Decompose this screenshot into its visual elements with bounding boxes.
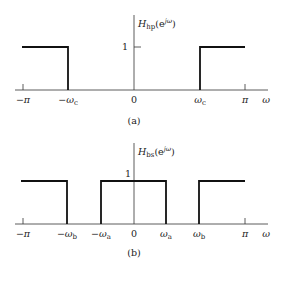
panel-a-y-label-1: 1 bbox=[122, 41, 128, 52]
panel-b-right-passband bbox=[199, 181, 245, 224]
panel-a-label-wc: ωc bbox=[194, 94, 206, 107]
panel-a-label-neg-wc: −ωc bbox=[58, 94, 78, 107]
panel-a-function-label: Hhp(ejω) bbox=[137, 17, 176, 31]
panel-b-label-neg-wb: −ωb bbox=[57, 228, 78, 241]
panel-b-center-passband bbox=[101, 181, 166, 224]
panel-a-highpass: Hhp(ejω) 1 −π −ωc 0 ωc π ω (a) bbox=[15, 15, 270, 126]
panel-a-axis-label-omega: ω bbox=[262, 94, 270, 105]
panel-a-label-zero: 0 bbox=[131, 94, 137, 105]
panel-a-right-passband bbox=[200, 47, 245, 90]
panel-a-caption: (a) bbox=[127, 115, 140, 126]
panel-b-label-wb: ωb bbox=[193, 228, 206, 241]
filter-diagram: Hhp(ejω) 1 −π −ωc 0 ωc π ω (a) Hbs(ejω) … bbox=[0, 0, 285, 281]
panel-b-caption: (b) bbox=[127, 247, 141, 258]
panel-b-label-neg-pi: −π bbox=[16, 228, 31, 239]
panel-b-axis-label-omega: ω bbox=[262, 228, 270, 239]
panel-b-label-zero: 0 bbox=[131, 228, 137, 239]
panel-b-function-label: Hbs(ejω) bbox=[137, 145, 175, 159]
panel-a-label-pi: π bbox=[241, 94, 249, 105]
panel-b-left-passband bbox=[21, 181, 67, 224]
panel-a-label-neg-pi: −π bbox=[16, 94, 31, 105]
panel-b-label-pi: π bbox=[241, 228, 249, 239]
panel-b-label-neg-wa: −ωa bbox=[91, 228, 111, 241]
panel-b-bandstop: Hbs(ejω) 1 −π −ωb −ωa 0 ωa ωb π ω (b) bbox=[15, 143, 270, 258]
panel-a-left-passband bbox=[22, 47, 68, 90]
panel-b-y-label-1: 1 bbox=[125, 168, 131, 179]
panel-b-label-wa: ωa bbox=[160, 228, 172, 241]
